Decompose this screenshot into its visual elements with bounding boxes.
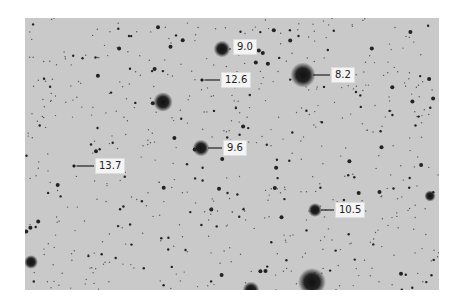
background-star (238, 134, 240, 136)
background-star (135, 71, 136, 72)
background-star (390, 85, 394, 89)
background-star (109, 262, 110, 263)
background-star (292, 234, 293, 235)
background-star (277, 71, 278, 72)
background-star (367, 130, 368, 131)
background-star (175, 147, 176, 148)
background-star (394, 67, 395, 68)
background-star (189, 95, 190, 96)
background-star (231, 261, 232, 262)
background-star (429, 107, 431, 109)
background-star (101, 253, 103, 255)
background-star (313, 124, 314, 125)
background-star (165, 27, 166, 28)
background-star (280, 215, 284, 219)
background-star (378, 281, 379, 282)
background-star (347, 159, 351, 163)
background-star (356, 268, 357, 269)
background-star (47, 281, 48, 282)
background-star (388, 110, 390, 112)
background-star (411, 93, 412, 94)
background-star (256, 142, 257, 143)
background-star (105, 112, 106, 113)
background-star (134, 102, 136, 104)
background-star (119, 208, 121, 210)
background-star (56, 183, 60, 187)
background-star (43, 78, 45, 80)
background-star (245, 219, 246, 220)
background-star (64, 56, 65, 57)
background-star (305, 110, 307, 112)
background-star (247, 127, 249, 129)
background-star (258, 88, 259, 89)
background-star (333, 30, 335, 32)
background-star (65, 58, 66, 59)
background-star (409, 208, 410, 209)
background-star (296, 112, 297, 113)
background-star (353, 176, 355, 178)
background-star (248, 141, 249, 142)
background-star (93, 283, 94, 284)
background-star (171, 266, 173, 268)
background-star (212, 198, 213, 199)
background-star (414, 124, 416, 126)
background-star (378, 155, 379, 156)
background-star (62, 273, 63, 274)
background-star (291, 53, 292, 54)
background-star (401, 289, 403, 290)
background-star (150, 31, 151, 32)
background-star (208, 236, 209, 237)
background-star (187, 191, 188, 192)
background-star (147, 144, 148, 145)
background-star (167, 237, 169, 239)
background-star (380, 145, 384, 149)
background-star (274, 166, 278, 170)
background-star (187, 122, 188, 123)
background-star (117, 47, 118, 48)
background-star (102, 241, 103, 242)
background-star (290, 235, 291, 236)
background-star (136, 31, 137, 32)
background-star (171, 187, 172, 188)
background-star (396, 212, 397, 213)
background-star (329, 269, 331, 271)
background-star (404, 82, 405, 83)
background-star (251, 271, 252, 272)
background-star (223, 130, 224, 131)
background-star (431, 260, 432, 261)
background-star (167, 74, 168, 75)
background-star (70, 287, 71, 288)
background-star (72, 99, 73, 100)
background-star (131, 196, 132, 197)
background-star (244, 33, 245, 34)
background-star (155, 159, 156, 160)
star-field-image: 9.08.212.69.613.710.5 (25, 18, 439, 290)
background-star (227, 224, 228, 225)
background-star (417, 156, 418, 157)
background-star (43, 61, 44, 62)
background-star (437, 256, 438, 257)
background-star (70, 85, 71, 86)
background-star (344, 176, 345, 177)
background-star (364, 18, 365, 19)
background-star (239, 121, 240, 122)
background-star (130, 243, 132, 245)
background-star (425, 234, 426, 235)
background-star (372, 243, 374, 245)
background-star (111, 135, 112, 136)
background-star (25, 230, 28, 234)
background-star (352, 24, 353, 25)
background-star (187, 251, 188, 252)
background-star (244, 210, 245, 211)
background-star (360, 106, 362, 108)
background-star (433, 250, 434, 251)
background-star (365, 84, 366, 85)
background-star (160, 280, 161, 281)
background-star (94, 180, 95, 181)
background-star (356, 86, 357, 87)
background-star (92, 107, 93, 108)
background-star (226, 66, 227, 67)
background-star (315, 191, 316, 192)
background-star (322, 268, 323, 269)
background-star (393, 255, 394, 256)
